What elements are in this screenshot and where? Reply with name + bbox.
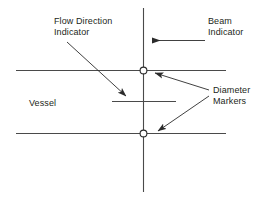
diameter-marker-upper <box>140 67 147 74</box>
beam-indicator-label-line2: Indicator <box>208 27 243 38</box>
flow-direction-label-line1: Flow Direction <box>54 16 112 27</box>
beam-indicator-label-line1: Beam <box>208 16 243 27</box>
diameter-markers-label-line1: Diameter <box>213 85 250 96</box>
diameter-marker-lower <box>140 130 147 137</box>
flow-direction-label-line2: Indicator <box>54 27 112 38</box>
diameter-markers-label: Diameter Markers <box>213 85 250 106</box>
vessel-label-line1: Vessel <box>29 98 56 109</box>
flow-direction-leader-arrow <box>67 42 126 96</box>
flow-direction-label: Flow Direction Indicator <box>54 16 112 37</box>
vessel-label: Vessel <box>29 98 56 109</box>
beam-indicator-label: Beam Indicator <box>208 16 243 37</box>
diameter-marker-upper-leader-arrow <box>155 73 209 90</box>
vessel-diameter-diagram: Flow Direction Indicator Beam Indicator … <box>0 0 274 208</box>
diameter-markers-label-line2: Markers <box>213 96 250 107</box>
